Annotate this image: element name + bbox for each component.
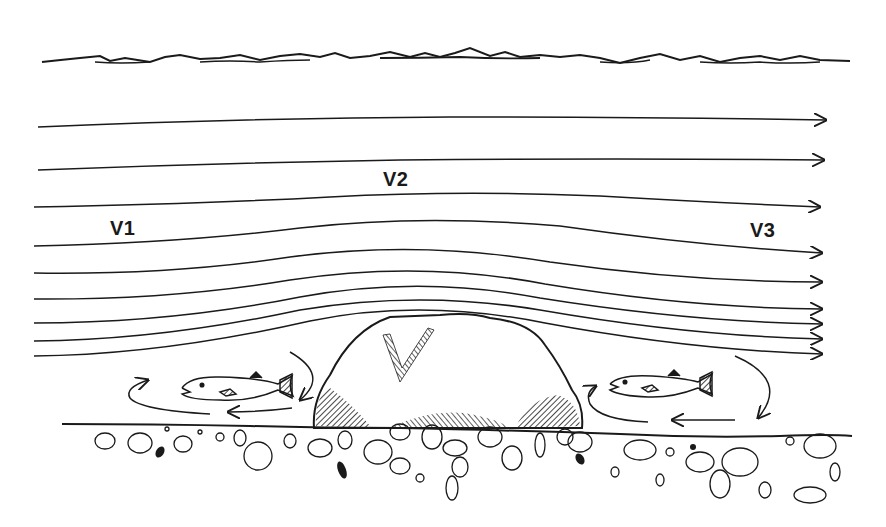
label-v1: V1 [110,217,135,240]
downstream-eddy-arrows [588,356,769,422]
label-v2: V2 [383,168,408,191]
flow-diagram-svg [0,0,886,527]
water-surface-icon [42,48,850,63]
dark-pebbles [154,444,696,480]
fish-upstream-icon [182,372,293,400]
diagram-canvas: V1 V2 V3 [0,0,886,527]
boulder-icon [314,314,582,428]
label-v3: V3 [750,219,775,242]
fish-downstream-icon [610,370,712,397]
